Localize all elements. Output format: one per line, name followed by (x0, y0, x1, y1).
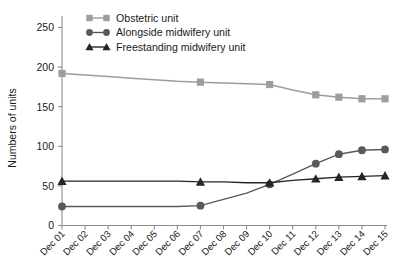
x-tick-label: Dec 12 (291, 228, 320, 257)
data-point-marker (358, 95, 365, 102)
y-axis-title: Numbers of units (6, 88, 18, 167)
legend-item[interactable]: Freestanding midwifery unit (85, 41, 245, 53)
x-tick-label: Dec 05 (130, 228, 159, 257)
legend-item[interactable]: Obstetric unit (86, 12, 178, 24)
data-point-marker (312, 160, 320, 168)
x-tick-label: Dec 13 (314, 228, 343, 257)
legend-label: Obstetric unit (116, 12, 178, 24)
data-point-marker (358, 146, 366, 154)
legend-label: Freestanding midwifery unit (116, 41, 246, 53)
square-marker (86, 15, 92, 21)
chart-canvas: 050100150200250Numbers of unitsDec 01Dec… (0, 0, 401, 272)
data-point-marker (381, 146, 389, 154)
data-point-marker (335, 94, 342, 101)
x-tick-label: Dec 09 (222, 228, 251, 257)
y-tick-label: 50 (42, 180, 54, 192)
data-point-marker (335, 150, 343, 158)
y-tick-label: 0 (48, 219, 54, 231)
x-tick-label: Dec 02 (61, 228, 90, 257)
x-tick-label: Dec 01 (38, 228, 67, 257)
data-point-marker (197, 202, 205, 210)
series-1 (58, 70, 388, 103)
legend: Obstetric unitAlongside midwifery unitFr… (85, 12, 245, 53)
legend-item[interactable]: Alongside midwifery unit (86, 26, 230, 38)
square-marker (103, 15, 109, 21)
series-3 (57, 171, 389, 187)
data-point-marker (197, 79, 204, 86)
data-point-marker (58, 70, 65, 77)
legend-label: Alongside midwifery unit (116, 26, 230, 38)
line-chart: 050100150200250Numbers of unitsDec 01Dec… (0, 0, 401, 272)
circle-marker (103, 29, 110, 36)
x-tick-label: Dec 07 (176, 228, 205, 257)
data-point-marker (312, 91, 319, 98)
y-tick-label: 250 (36, 21, 54, 33)
circle-marker (86, 29, 93, 36)
x-tick-label: Dec 15 (361, 228, 390, 257)
x-tick-label: Dec 03 (84, 228, 113, 257)
data-point-marker (266, 81, 273, 88)
data-point-marker (381, 95, 388, 102)
data-point-marker (58, 203, 66, 211)
x-tick-label: Dec 08 (199, 228, 228, 257)
y-tick-label: 150 (36, 101, 54, 113)
y-tick-label: 200 (36, 61, 54, 73)
y-tick-label: 100 (36, 140, 54, 152)
x-tick-label: Dec 06 (153, 228, 182, 257)
x-tick-label: Dec 10 (245, 228, 274, 257)
